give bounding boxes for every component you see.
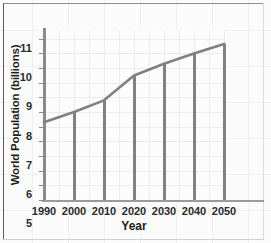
- x-tick-label: 2040: [182, 206, 206, 217]
- chart-screenshot: World Population (billions) Year 0123456…: [0, 0, 271, 243]
- x-tick-label: 2010: [92, 206, 116, 217]
- scan-border-bottom: [3, 239, 264, 240]
- x-tick-label: 1990: [32, 206, 56, 217]
- x-tick-label: 2050: [212, 206, 236, 217]
- y-tick-mark: 0: [39, 200, 44, 201]
- plot-area: 01234567891011 1990200020102020203020402…: [44, 30, 224, 200]
- x-tick-label: 2020: [122, 206, 146, 217]
- scan-border-left: [3, 3, 4, 240]
- series-line: [44, 30, 224, 200]
- y-tick-label: 6: [26, 189, 32, 200]
- x-tick-label: 2000: [62, 206, 86, 217]
- y-tick-label: 9: [26, 101, 32, 112]
- y-tick-label: 11: [20, 42, 32, 53]
- x-tick-label: 2030: [152, 206, 176, 217]
- y-tick-label: 10: [20, 71, 32, 82]
- y-axis-title: World Population (billions): [7, 30, 23, 200]
- x-axis-line: [42, 200, 264, 202]
- y-tick-label: 8: [26, 130, 32, 141]
- x-axis-title: Year: [44, 219, 224, 233]
- scan-border-top: [3, 3, 264, 4]
- y-tick-label: 5: [26, 218, 32, 229]
- y-tick-label: 7: [26, 159, 32, 170]
- scan-border-right: [263, 3, 264, 240]
